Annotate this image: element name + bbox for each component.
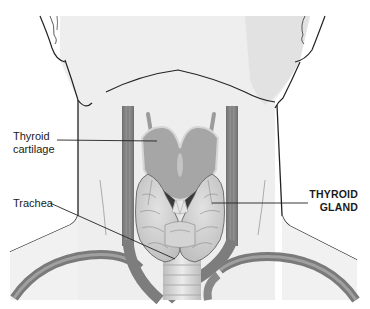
thyroid-gland-label: THYROID GLAND	[309, 188, 358, 214]
thyroid-cartilage-label-line1: Thyroid	[13, 130, 55, 143]
thyroid-anatomy-diagram: Thyroid cartilage Trachea THYROID GLAND	[0, 0, 370, 309]
thyroid-cartilage-label: Thyroid cartilage	[13, 130, 55, 156]
trachea-label-text: Trachea	[13, 197, 53, 210]
neck-illustration	[0, 0, 370, 309]
thyroid-cartilage-label-line2: cartilage	[13, 143, 55, 156]
thyroid-gland-label-line2: GLAND	[309, 201, 358, 214]
thyroid-gland-label-line1: THYROID	[309, 188, 358, 201]
trachea-label: Trachea	[13, 197, 53, 210]
